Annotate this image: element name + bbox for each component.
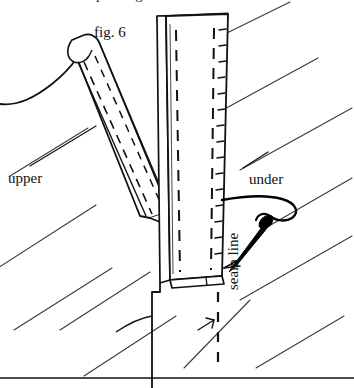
figure-illustration xyxy=(0,0,354,388)
label-upper: upper xyxy=(8,171,42,186)
upper-strip xyxy=(0,34,168,222)
label-under: under xyxy=(249,172,283,187)
figure-caption-label: fig. 6 xyxy=(94,25,126,40)
figure-panel: p g fig. 6 upper under seam line xyxy=(0,0,354,388)
seam-line-guide xyxy=(198,292,218,370)
garment-body-edge xyxy=(116,283,160,388)
under-strip xyxy=(157,13,228,288)
label-seam-line: seam line xyxy=(226,233,241,290)
clipped-top-text: p g xyxy=(96,0,157,2)
